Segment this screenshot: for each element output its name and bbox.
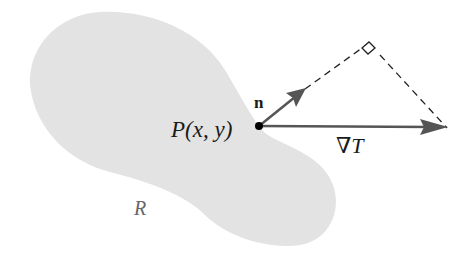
point-label: P(x, y) <box>170 117 232 142</box>
right-angle-marker <box>362 42 375 54</box>
gradient-normal-diagram: P(x, y) n ∇T R <box>0 0 470 267</box>
gradient-arrow-head-icon <box>420 119 448 135</box>
gradient-arrow-shaft <box>259 126 432 127</box>
dashed-line-n-extension <box>305 48 362 89</box>
dashed-line-perpendicular <box>380 55 447 128</box>
region-label: R <box>133 197 146 219</box>
point-p-dot <box>255 122 263 130</box>
normal-arrow-shaft <box>259 97 295 126</box>
normal-label: n <box>254 93 264 112</box>
normal-arrow-head-icon <box>286 88 306 107</box>
gradient-label: ∇T <box>336 133 365 158</box>
